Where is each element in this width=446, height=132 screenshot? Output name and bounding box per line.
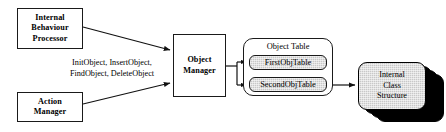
node-action-manager-line-2: Manager xyxy=(34,107,67,117)
node-action-manager-line-1: Action xyxy=(38,97,62,107)
node-second-obj-table-label: SecondObjTable xyxy=(260,80,316,89)
node-internal-class-structure[interactable]: Internal Class Structure xyxy=(358,62,446,124)
edge-label-methods-line-1: InitObject, InsertObject, xyxy=(53,57,171,68)
node-internal-class-structure-line-3: Structure xyxy=(377,91,407,102)
node-object-manager[interactable]: Object Manager xyxy=(173,34,226,97)
group-object-table-title: Object Table xyxy=(243,42,333,52)
node-internal-behaviour-processor[interactable]: Internal Behaviour Processor xyxy=(17,8,83,49)
edge-label-methods: InitObject, InsertObject, FindObject, De… xyxy=(53,57,171,79)
node-internal-behaviour-processor-line-3: Processor xyxy=(33,34,68,44)
diagram-canvas: Internal Behaviour Processor Action Mana… xyxy=(0,0,446,132)
node-internal-behaviour-processor-line-1: Internal xyxy=(35,13,64,23)
node-second-obj-table[interactable]: SecondObjTable xyxy=(249,77,327,92)
node-internal-class-structure-front: Internal Class Structure xyxy=(358,62,426,110)
node-action-manager[interactable]: Action Manager xyxy=(17,92,83,122)
node-internal-class-structure-line-2: Class xyxy=(383,81,401,92)
node-internal-behaviour-processor-line-2: Behaviour xyxy=(31,23,68,33)
edge-action-manager-to-object-manager xyxy=(83,83,170,104)
edge-label-methods-line-2: FindObject, DeleteObject xyxy=(53,68,171,79)
node-first-obj-table-label: FirstObjTable xyxy=(265,58,311,67)
edge-ibp-to-object-manager xyxy=(83,27,170,50)
node-object-manager-line-1: Object xyxy=(187,55,211,65)
node-first-obj-table[interactable]: FirstObjTable xyxy=(249,55,327,70)
node-object-manager-line-2: Manager xyxy=(183,66,216,76)
node-internal-class-structure-line-1: Internal xyxy=(379,70,404,81)
